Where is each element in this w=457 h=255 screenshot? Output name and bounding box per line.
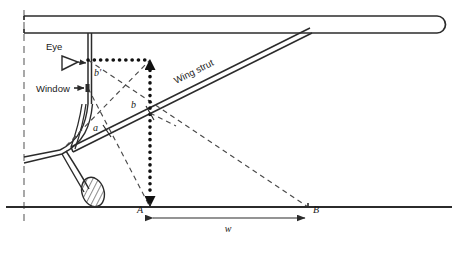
window-pointer-icon [74, 84, 90, 92]
diagram-canvas: Eye Window Wing strut A B w a b b' [0, 0, 457, 255]
eye-icon [62, 56, 86, 70]
label-wing-strut: Wing strut [172, 57, 215, 86]
label-eye: Eye [46, 41, 62, 52]
label-window: Window [36, 83, 70, 94]
label-angle-b: b [131, 99, 136, 110]
wing-tip [437, 16, 446, 33]
wing-strut-diagram: Eye Window Wing strut A B w a b b' [0, 0, 457, 255]
wing-strut-edge-upper [71, 28, 310, 147]
label-angle-b-prime: b' [94, 67, 102, 78]
label-point-b: B [313, 204, 319, 215]
hatched-wheel-icon [78, 174, 108, 209]
gear-leg-left [62, 154, 84, 192]
label-width-w: w [225, 223, 232, 234]
sightline-eye-to-b [88, 60, 308, 207]
label-angle-a: a [93, 122, 98, 133]
fuselage-contour-outer [60, 104, 88, 150]
label-point-a: A [136, 204, 144, 215]
